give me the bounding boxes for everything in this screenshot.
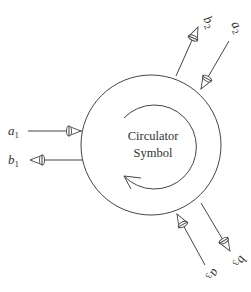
label-b3: b3 bbox=[230, 253, 250, 271]
center-title-line2: Symbol bbox=[134, 146, 173, 160]
label-b2: b2 bbox=[199, 13, 219, 31]
circulator-outer-circle bbox=[81, 75, 221, 215]
label-b1: b1 bbox=[8, 152, 19, 169]
port-3-reflected-wave: b3 bbox=[201, 203, 250, 271]
arrow-up-left-icon bbox=[173, 212, 189, 230]
label-a3: a3 bbox=[203, 266, 223, 284]
arrow-right-icon bbox=[67, 126, 82, 136]
arrow-down-right-icon bbox=[218, 236, 234, 254]
port-1-incident-wave: a1 bbox=[8, 123, 82, 140]
arrow-left-icon bbox=[30, 155, 45, 165]
arrow-down-left-icon bbox=[197, 74, 213, 92]
port-2-reflected-wave: b2 bbox=[176, 13, 219, 76]
port-3-incident-wave: a3 bbox=[173, 212, 224, 284]
arrow-up-right-icon bbox=[188, 25, 203, 42]
port-1-reflected-wave: b1 bbox=[8, 152, 83, 169]
label-a1: a1 bbox=[8, 123, 19, 140]
center-title-line1: Circulator bbox=[128, 129, 180, 143]
label-a2: a2 bbox=[227, 18, 247, 36]
circulator-diagram: Circulator Symbol a1 b1 b2 a2 a3 bbox=[0, 0, 251, 292]
